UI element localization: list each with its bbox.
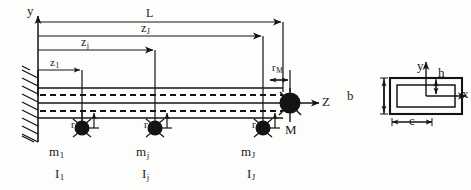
radius-rM-label: rM — [272, 62, 283, 73]
disk-M-label: M — [285, 123, 297, 136]
beam-body — [38, 88, 283, 118]
beam-diagram-svg — [0, 0, 471, 190]
Ij-sub: j — [146, 172, 149, 182]
mass-mJ-label: mJ — [241, 145, 255, 158]
mj-sub: j — [146, 150, 149, 160]
disk-M — [279, 88, 301, 122]
dimension-zJ-label: zJ — [141, 22, 150, 34]
dimension-z1-label: z1 — [50, 57, 59, 68]
section-h-label: h — [438, 66, 445, 79]
mass-mj-label: mj — [136, 145, 149, 158]
fixed-support — [22, 66, 38, 142]
radius-rJ-label: rJ — [252, 119, 259, 130]
dimension-line-L — [38, 22, 283, 92]
z1-sub: 1 — [55, 61, 59, 70]
dimension-b — [380, 78, 388, 114]
section-b-label: b — [347, 89, 354, 102]
m1-base: m — [49, 144, 59, 159]
IJ-sub: J — [251, 172, 255, 182]
inertia-Ij-label: Ij — [142, 167, 149, 180]
I1-sub: 1 — [59, 172, 64, 182]
dimension-zj-label: zj — [81, 36, 89, 48]
m1-sub: 1 — [59, 150, 64, 160]
r1-sub: 1 — [75, 123, 79, 132]
rJ-sub: J — [256, 123, 259, 132]
section-y-axis-label: y — [417, 59, 424, 72]
rj-sub: j — [148, 123, 151, 132]
zJ-sub: J — [146, 27, 150, 36]
mass-m1-label: m1 — [49, 145, 64, 158]
figure-canvas: y L zJ zj z1 rM r1 rj rJ m1 mj mJ I1 Ij … — [0, 0, 471, 190]
radius-rj-label: rj — [144, 119, 150, 130]
section-x-axis-label: x — [462, 87, 469, 100]
mj-base: m — [136, 144, 146, 159]
y-axis-label: y — [27, 4, 34, 17]
section-c-label: c — [409, 114, 415, 127]
rM-sub: M — [276, 66, 283, 75]
zj-sub: j — [86, 41, 89, 50]
z-axis-label: Z — [322, 95, 330, 108]
inertia-IJ-label: IJ — [247, 167, 255, 180]
mJ-base: m — [241, 144, 251, 159]
length-L-label: L — [146, 7, 153, 19]
mJ-sub: J — [251, 150, 255, 160]
inertia-I1-label: I1 — [55, 167, 64, 180]
radius-r1-label: r1 — [71, 119, 79, 130]
